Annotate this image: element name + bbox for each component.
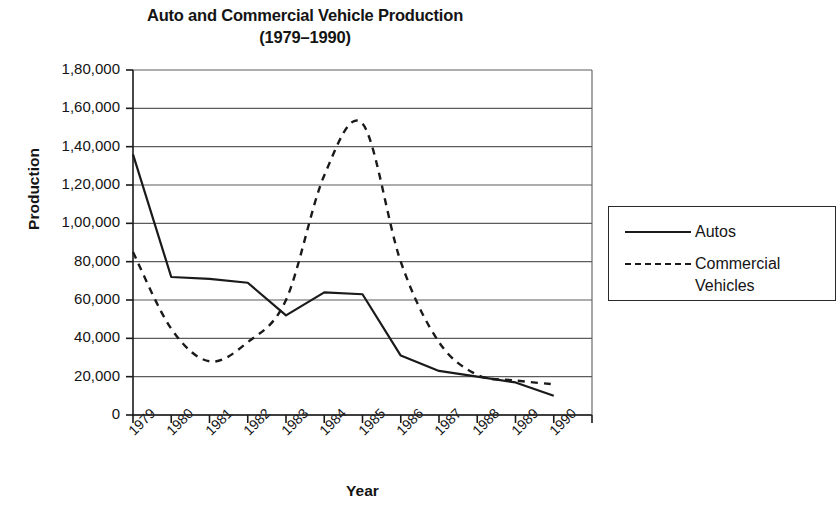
legend-line-solid-icon: [623, 223, 695, 241]
legend-label-autos: Autos: [695, 221, 736, 243]
legend-line-dashed-icon: [623, 255, 695, 273]
series-line-commercial-vehicles: [133, 120, 554, 384]
legend-item-autos: Autos: [623, 221, 736, 243]
legend: Autos Commercial Vehicles: [608, 206, 836, 301]
legend-item-commercial-vehicles: Commercial Vehicles: [623, 253, 825, 296]
series-line-autos: [133, 154, 554, 395]
legend-label-commercial-vehicles: Commercial Vehicles: [695, 253, 825, 296]
